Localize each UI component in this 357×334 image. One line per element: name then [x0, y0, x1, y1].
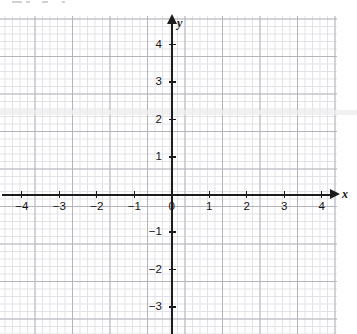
y-tick-mark	[169, 156, 176, 157]
x-tick-mark	[59, 191, 60, 198]
highlight-band	[0, 110, 357, 115]
y-tick-mark	[169, 269, 176, 270]
clipped-text-artifact	[12, 1, 22, 3]
x-axis-line	[2, 194, 332, 196]
x-tick-label: −3	[49, 200, 69, 212]
x-tick-label: 0	[162, 200, 182, 212]
clipped-text-artifact	[42, 1, 48, 3]
y-tick-label: 1	[140, 150, 162, 162]
x-tick-label: 2	[237, 200, 257, 212]
y-axis-label: y	[177, 16, 182, 31]
x-tick-mark	[246, 191, 247, 198]
x-tick-mark	[134, 191, 135, 198]
y-tick-label: 2	[140, 113, 162, 125]
x-tick-mark	[96, 191, 97, 198]
y-tick-mark	[169, 81, 176, 82]
graph-grid	[0, 16, 337, 334]
x-tick-label: 3	[274, 200, 294, 212]
x-tick-label: 4	[312, 200, 332, 212]
x-tick-label: −2	[87, 200, 107, 212]
y-tick-mark	[169, 306, 176, 307]
y-tick-mark	[169, 44, 176, 45]
x-tick-mark	[21, 191, 22, 198]
coordinate-plane-figure: x y −4−3−2−101234 4321−1−2−3	[0, 0, 357, 334]
y-tick-mark	[169, 231, 176, 232]
x-tick-mark	[284, 191, 285, 198]
y-tick-label: 4	[140, 38, 162, 50]
x-tick-mark	[321, 191, 322, 198]
x-tick-mark	[209, 191, 210, 198]
y-axis-arrow-icon	[167, 14, 177, 24]
x-tick-label: −4	[12, 200, 32, 212]
y-axis-line	[171, 20, 173, 334]
y-tick-label: −1	[140, 225, 162, 237]
x-tick-label: −1	[124, 200, 144, 212]
x-axis-label: x	[342, 187, 348, 202]
clipped-text-artifact	[26, 1, 30, 3]
major-gridlines	[0, 16, 337, 334]
y-tick-label: 3	[140, 75, 162, 87]
y-tick-label: −3	[140, 300, 162, 312]
x-axis-arrow-icon	[330, 189, 340, 199]
y-tick-label: −2	[140, 263, 162, 275]
clipped-text-artifact	[62, 1, 65, 3]
x-tick-label: 1	[199, 200, 219, 212]
y-tick-mark	[169, 119, 176, 120]
